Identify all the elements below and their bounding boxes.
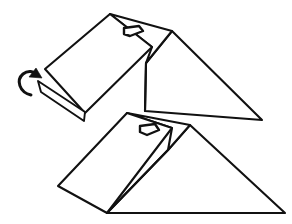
- upper-inner-edge: [145, 63, 146, 111]
- upper-wedge: [38, 14, 262, 121]
- figure-illustration: [0, 0, 292, 224]
- drawing-canvas: [0, 0, 292, 224]
- lower-wedge: [58, 113, 285, 213]
- upper-side-triangle: [145, 31, 262, 120]
